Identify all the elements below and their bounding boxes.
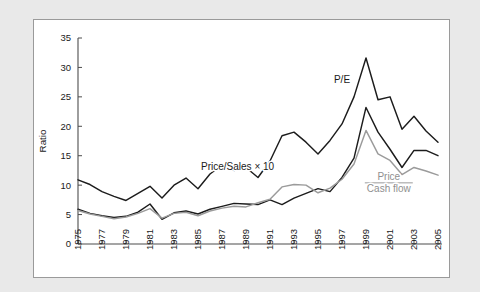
x-tick-label: 1995: [312, 229, 323, 250]
x-tick-label: 1993: [288, 229, 299, 250]
y-axis-title: Ratio: [37, 129, 48, 152]
x-tick-label: 1983: [168, 229, 179, 250]
chart-card: 05101520253035 1975197719791981198319851…: [33, 19, 450, 278]
svg-text:Price: Price: [377, 171, 400, 182]
series-annotations: P/EP/EPrice/Sales × 10Price/Sales × 10Pr…: [201, 74, 413, 194]
annotation-pe: P/EP/E: [334, 74, 350, 85]
x-axis: 1975197719791981198319851987198919911993…: [72, 229, 443, 250]
y-tick-label: 5: [66, 209, 71, 220]
y-axis: 05101520253035: [60, 32, 82, 249]
svg-text:Cash flow: Cash flow: [367, 183, 412, 194]
annotation-price-numerator: PricePrice: [377, 171, 400, 182]
y-tick-label: 15: [60, 150, 71, 161]
x-tick-label: 1999: [360, 229, 371, 250]
y-tick-label: 0: [66, 238, 71, 249]
x-tick-label: 1991: [264, 229, 275, 250]
y-tick-label: 20: [60, 121, 71, 132]
figure-root: 05101520253035 1975197719791981198319851…: [0, 0, 480, 292]
x-tick-label: 1985: [192, 229, 203, 250]
y-tick-label: 35: [60, 32, 71, 43]
x-tick-label: 1987: [216, 229, 227, 250]
annotation-cashflow-denominator: Cash flowCash flow: [367, 183, 412, 194]
x-tick-label: 1981: [144, 229, 155, 250]
y-tick-label: 10: [60, 180, 71, 191]
x-tick-label: 1977: [96, 229, 107, 250]
x-tick-label: 2003: [408, 229, 419, 250]
y-tick-label: 25: [60, 91, 71, 102]
x-tick-label: 1997: [336, 229, 347, 250]
x-tick-label: 2001: [384, 229, 395, 250]
x-tick-label: 2005: [432, 229, 443, 250]
x-tick-label: 1975: [72, 229, 83, 250]
svg-text:Price/Sales × 10: Price/Sales × 10: [201, 161, 275, 172]
svg-text:P/E: P/E: [334, 74, 350, 85]
series-lines: [78, 58, 438, 219]
annotation-price-sales: Price/Sales × 10Price/Sales × 10: [201, 161, 275, 172]
y-tick-label: 30: [60, 62, 71, 73]
x-tick-label: 1979: [120, 229, 131, 250]
x-tick-label: 1989: [240, 229, 251, 250]
ratio-line-chart: 05101520253035 1975197719791981198319851…: [34, 20, 451, 279]
